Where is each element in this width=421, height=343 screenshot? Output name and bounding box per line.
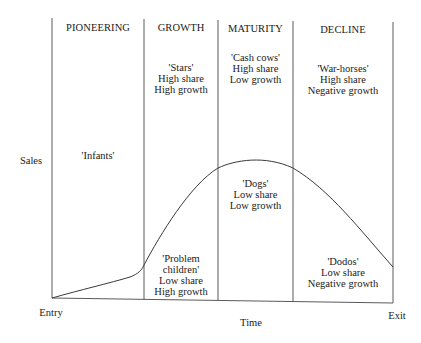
label-line: Low share (218, 189, 293, 200)
stage-pioneering: PIONEERING (52, 22, 144, 33)
label-line: Low share (144, 275, 218, 286)
label-line: Negative growth (293, 278, 393, 289)
label-line: High share (293, 74, 393, 85)
label-line: High share (218, 63, 293, 74)
label-line: 'Cash cows' (218, 52, 293, 63)
stage-label: PIONEERING (52, 22, 144, 33)
axis-label-text: Entry (36, 307, 66, 318)
label-line: children' (144, 264, 218, 275)
stage-decline: DECLINE (293, 24, 393, 35)
axis-label-text: Time (236, 317, 266, 328)
stage-growth: GROWTH (144, 22, 218, 33)
label-dodos: 'Dodos' Low share Negative growth (293, 256, 393, 289)
label-infants: 'Infants' (52, 150, 144, 161)
exit-label: Exit (382, 310, 412, 321)
label-line: Negative growth (293, 85, 393, 96)
label-line: Low growth (218, 200, 293, 211)
label-line: 'Dogs' (218, 178, 293, 189)
label-line: High growth (144, 286, 218, 297)
label-line: 'Dodos' (293, 256, 393, 267)
label-stars: 'Stars' High share High growth (144, 62, 218, 95)
time-axis (52, 298, 393, 303)
label-cash-cows: 'Cash cows' High share Low growth (218, 52, 293, 85)
label-line: 'Stars' (144, 62, 218, 73)
axis-label-text: Exit (382, 310, 412, 321)
label-dogs: 'Dogs' Low share Low growth (218, 178, 293, 211)
label-war-horses: 'War-horses' High share Negative growth (293, 63, 393, 96)
label-line: 'Problem (144, 253, 218, 264)
label-line: High growth (144, 84, 218, 95)
entry-label: Entry (36, 307, 66, 318)
axis-label-text: Sales (16, 155, 46, 166)
stage-maturity: MATURITY (218, 23, 293, 34)
stage-label: DECLINE (293, 24, 393, 35)
stage-label: GROWTH (144, 22, 218, 33)
label-line: 'Infants' (52, 150, 144, 161)
label-line: High share (144, 73, 218, 84)
y-axis-label: Sales (16, 155, 46, 166)
x-axis-label: Time (236, 317, 266, 328)
label-line: Low share (293, 267, 393, 278)
label-line: 'War-horses' (293, 63, 393, 74)
label-problem-children: 'Problem children' Low share High growth (144, 253, 218, 297)
stage-label: MATURITY (218, 23, 293, 34)
label-line: Low growth (218, 74, 293, 85)
